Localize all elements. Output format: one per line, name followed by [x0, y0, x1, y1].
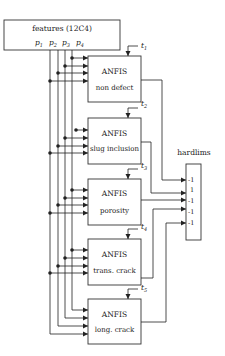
svg-text:ANFIS: ANFIS — [101, 67, 127, 76]
target-t3: t3 — [141, 161, 147, 171]
anfis-block-non-defect: ANFIS non defect — [88, 56, 141, 102]
anfis-block-trans-crack: ANFIS trans. crack — [88, 239, 141, 285]
features-block: features (12C4) p1 p2 p3 p4 — [4, 20, 120, 50]
svg-text:ANFIS: ANFIS — [101, 129, 127, 138]
anfis-block-slug-inclusion: ANFIS slug inclusion — [88, 118, 141, 164]
features-title: features (12C4) — [32, 24, 92, 33]
target-t4: t4 — [141, 222, 147, 232]
hardlims-output-4: -1 — [188, 208, 194, 216]
target-t2: t2 — [141, 99, 147, 109]
target-t1: t1 — [141, 41, 147, 51]
hardlims-output-1: -1 — [188, 176, 194, 184]
svg-text:long. crack: long. crack — [95, 326, 135, 334]
svg-text:porosity: porosity — [100, 207, 129, 215]
svg-text:ANFIS: ANFIS — [101, 310, 127, 319]
target-t5: t5 — [141, 283, 147, 293]
anfis-block-porosity: ANFIS porosity — [88, 179, 141, 225]
svg-text:trans. crack: trans. crack — [93, 267, 136, 275]
hardlims-output-2: 1 — [190, 186, 194, 194]
input-connections — [48, 56, 88, 334]
svg-text:non defect: non defect — [96, 84, 134, 92]
input-bus — [50, 50, 72, 334]
anfis-block-long-crack: ANFIS long. crack — [88, 299, 141, 344]
hardlims-block: hardlims -1 1 -1 -1 -1 — [177, 148, 211, 240]
hardlims-output-3: -1 — [188, 197, 194, 205]
anfis-classifier-diagram: features (12C4) p1 p2 p3 p4 — [0, 0, 225, 356]
svg-text:ANFIS: ANFIS — [101, 189, 127, 198]
hardlims-output-5: -1 — [188, 219, 194, 227]
svg-text:ANFIS: ANFIS — [101, 250, 127, 259]
hardlims-title: hardlims — [177, 148, 211, 157]
svg-text:slug inclusion: slug inclusion — [90, 145, 140, 153]
output-connections — [141, 80, 186, 322]
